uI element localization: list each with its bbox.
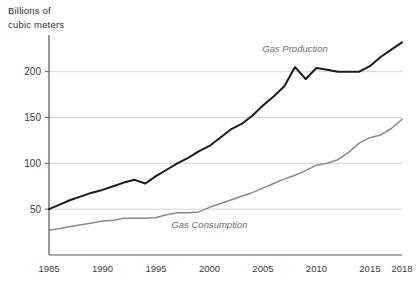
y-tick-label: 200 <box>24 66 41 77</box>
series-line-gas-production <box>49 42 402 209</box>
series-line-gas-consumption <box>49 119 402 230</box>
x-tick-label: 2005 <box>252 263 273 274</box>
x-tick-label: 2018 <box>391 263 412 274</box>
gridlines-group <box>49 72 402 210</box>
series-label-gas-consumption: Gas Consumption <box>171 219 247 230</box>
gas-line-chart: Billions of cubic meters 50100150200 198… <box>0 0 419 286</box>
series-annotations-group: Gas ProductionGas Consumption <box>171 43 327 230</box>
x-tick-label: 2010 <box>306 263 327 274</box>
y-tick-labels-group: 50100150200 <box>24 66 41 215</box>
series-paths-group <box>49 42 402 230</box>
series-label-gas-production: Gas Production <box>262 43 327 54</box>
chart-plot-area: 50100150200 1985199019952000200520102015… <box>0 0 419 286</box>
x-tick-label: 1995 <box>145 263 166 274</box>
x-tick-label: 2000 <box>199 263 220 274</box>
y-tick-label: 150 <box>24 112 41 123</box>
x-tick-label: 1985 <box>38 263 59 274</box>
y-tick-label: 100 <box>24 158 41 169</box>
x-tick-label: 1990 <box>92 263 113 274</box>
x-tick-labels-group: 19851990199520002005201020152018 <box>38 263 412 274</box>
x-tick-label: 2015 <box>359 263 380 274</box>
y-tick-label: 50 <box>30 204 42 215</box>
